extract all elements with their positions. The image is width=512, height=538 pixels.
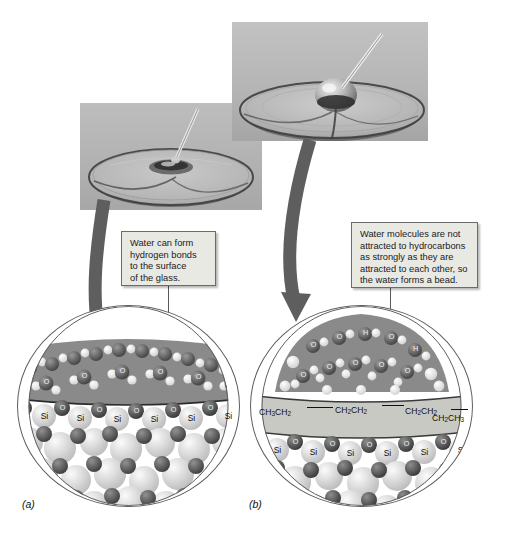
callout-b-line-3: as strongly as they are [360,252,469,264]
hydrocarbon-unit-2: CH2CH2 [335,405,367,415]
callout-b-line-1: Water molecules are not [360,229,469,241]
chain-bond-3 [451,409,468,410]
callout-box-hydrogen-bonding: Water can form hydrogen bonds to the sur… [121,231,216,286]
callout-a-line-2: hydrogen bonds [130,250,207,262]
chain-bond-1 [307,407,333,408]
figure-root: Water can form hydrogen bonds to the sur… [0,0,512,538]
callout-b-line-4: attracted to each other, so [360,264,469,276]
inset-a-artwork [18,306,239,506]
callout-b-line-5: the water forms a bead. [360,275,469,287]
photograph-water-beading-on-hydrocarbon [232,22,428,141]
molecular-inset-water-on-hydrocarbon: CH3CH2 CH2CH2 CH2CH2 CH2CH3 O H O H O H … [250,305,473,507]
hydrocarbon-unit-1: CH3CH2 [259,407,291,417]
callout-box-water-bead: Water molecules are not attracted to hyd… [351,222,478,288]
panel-label-a: (a) [22,498,35,510]
photo-b-artwork [232,22,428,141]
callout-b-line-2: attracted to hydrocarbons [360,241,469,253]
callout-a-line-3: to the surface [130,261,207,273]
callout-a-line-1: Water can form [130,238,207,250]
callout-a-line-4: of the glass. [130,273,207,285]
hydrocarbon-unit-4: CH2CH3 [432,413,464,423]
arrow-photo-b-to-circle-b [281,140,311,322]
chain-bond-2 [382,405,404,406]
molecular-inset-water-on-glass: H O H H O H H O H H O H H O H O Si O Si … [17,305,240,507]
panel-label-b: (b) [249,498,262,510]
